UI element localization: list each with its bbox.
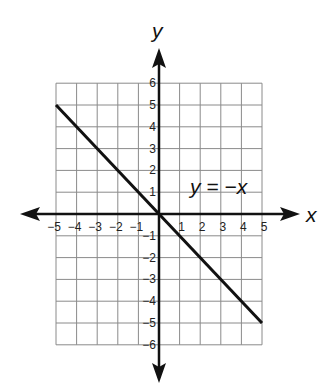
y-axis-label: y [150, 19, 164, 42]
y-tick-label: 1 [149, 185, 156, 199]
y-tick-label: 5 [149, 98, 156, 112]
y-tick-label: 6 [149, 76, 156, 90]
x-tick-label: −2 [109, 220, 123, 234]
x-tick-label: 4 [240, 220, 247, 234]
y-tick-label: 2 [149, 163, 156, 177]
y-tick-label: −2 [142, 251, 156, 265]
y-tick-label: −4 [142, 294, 156, 308]
y-tick-label: −3 [142, 272, 156, 286]
x-tick-label: 5 [261, 220, 268, 234]
equation-label: y = −x [188, 175, 249, 198]
x-tick-label: −5 [47, 220, 61, 234]
y-tick-label: 3 [149, 142, 156, 156]
x-tick-labels: −5−4−3−2−112345 [47, 220, 268, 234]
x-tick-label: 3 [219, 220, 226, 234]
x-tick-label: 1 [178, 220, 185, 234]
y-tick-label: −1 [142, 229, 156, 243]
x-tick-label: −3 [88, 220, 102, 234]
y-tick-label: −5 [142, 316, 156, 330]
coordinate-plane: −5−4−3−2−112345 654321−1−2−3−4−5−6 x y y… [0, 0, 329, 387]
x-tick-label: −4 [68, 220, 82, 234]
y-tick-label: −6 [142, 338, 156, 352]
x-axis-label: x [305, 203, 318, 226]
x-tick-label: 2 [199, 220, 206, 234]
y-tick-label: 4 [149, 120, 156, 134]
